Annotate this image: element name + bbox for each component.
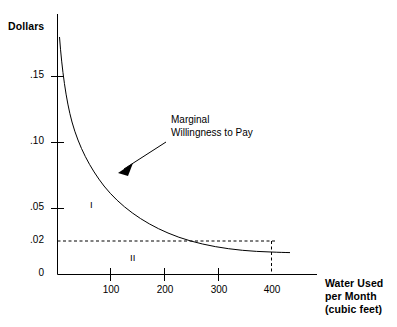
y-tick-label-002: .02 xyxy=(14,234,44,247)
y-tick-label-000: 0 xyxy=(14,267,44,280)
y-axis-title: Dollars xyxy=(8,20,44,33)
y-tick-label-005: .05 xyxy=(14,201,44,214)
x-axis-title-line2: per Month xyxy=(325,290,383,303)
marginal-willingness-to-pay-curve xyxy=(60,37,291,253)
region-label-one: I xyxy=(90,199,93,211)
y-tick-label-010: .10 xyxy=(14,135,44,148)
region-label-two: II xyxy=(130,252,135,264)
y-tick-label-015: .15 xyxy=(14,69,44,82)
x-tick-label-100: 100 xyxy=(93,284,129,297)
water-demand-chart: Dollars Water Used per Month (cubic feet… xyxy=(0,0,397,327)
annotation-arrow-head xyxy=(118,163,133,176)
annotation-line2: Willingness to Pay xyxy=(171,127,253,140)
annotation-line1: Marginal xyxy=(171,114,253,127)
x-tick-label-300: 300 xyxy=(201,284,237,297)
x-tick-label-400: 400 xyxy=(254,284,290,297)
x-tick-label-200: 200 xyxy=(147,284,183,297)
x-axis-title-line3: (cubic feet) xyxy=(325,303,383,316)
x-axis-title-line1: Water Used xyxy=(325,277,383,290)
marginal-willingness-to-pay-label: Marginal Willingness to Pay xyxy=(171,114,253,139)
x-axis-title: Water Used per Month (cubic feet) xyxy=(325,277,383,316)
